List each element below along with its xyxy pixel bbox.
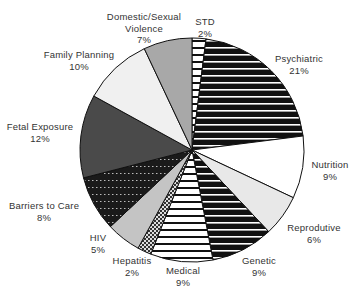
slice-label-medical: Medical9%: [166, 265, 200, 288]
slice-label-hepatitis: Hepatitis2%: [113, 255, 152, 278]
slice-label-barriers-to-care: Barriers to Care8%: [9, 200, 79, 223]
slice-label-genetic: Genetic9%: [242, 255, 276, 278]
slice-label-domestic-sexual-violence: Domestic/SexualViolence7%: [107, 11, 181, 46]
slice-label-psychiatric: Psychiatric21%: [275, 53, 323, 76]
slice-label-reproductive: Reprodutive6%: [287, 222, 340, 245]
slice-label-family-planning: Family Planning10%: [44, 49, 115, 72]
slice-label-nutrition: Nutrition9%: [311, 159, 348, 182]
slice-label-std: STD2%: [195, 16, 215, 39]
slice-label-hiv: HIV5%: [90, 232, 106, 255]
slice-label-fetal-exposure: Fetal Exposure12%: [7, 121, 74, 144]
